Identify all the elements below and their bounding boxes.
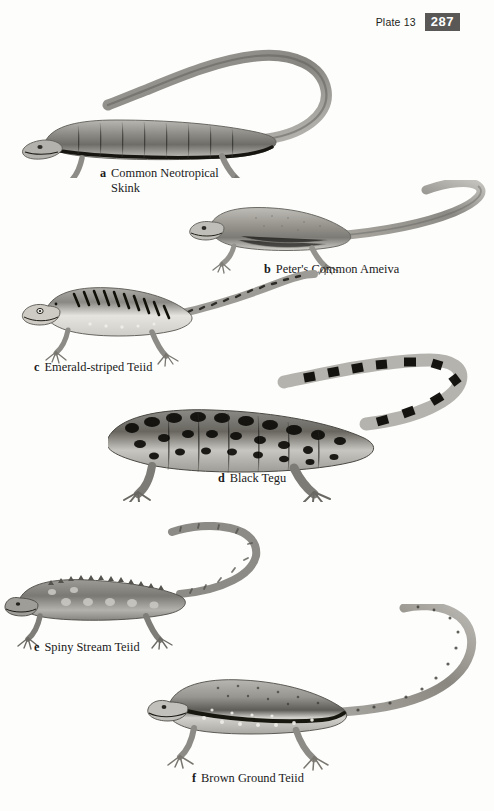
plate-label: Plate 13: [376, 16, 416, 28]
hindleg-d: [294, 468, 314, 494]
foreleg-a: [70, 158, 82, 178]
eye-a: [37, 145, 42, 149]
figure-d-black-tegu: [108, 352, 494, 502]
foreleg-e: [28, 616, 40, 639]
tail-d: [284, 360, 461, 424]
hindleg-f: [296, 730, 314, 759]
tail-c: [178, 274, 314, 314]
caption-d-tag: d: [218, 471, 225, 486]
pupil-c: [39, 310, 41, 312]
head-a: [22, 140, 62, 159]
figure-b-peters-common-ameiva: [186, 180, 494, 275]
eye-b: [202, 226, 207, 230]
caption-e-tag: e: [34, 640, 39, 655]
foreleg-c: [56, 330, 68, 353]
caption-f-line1: Brown Ground Teiid: [201, 771, 304, 785]
foreleg-d: [138, 466, 152, 494]
eye-f: [162, 705, 167, 709]
tail-f-speckles: [356, 606, 459, 712]
caption-d-line1: Black Tegu: [230, 471, 286, 485]
caption-a-line1: Common Neotropical: [111, 166, 219, 180]
caption-e: e Spiny Stream Teiid: [34, 640, 140, 655]
caption-e-line1: Spiny Stream Teiid: [44, 640, 139, 654]
foreleg-f: [180, 728, 194, 757]
plate-page: Plate 13 287: [0, 0, 494, 811]
eye-e: [16, 602, 20, 606]
head-spot-c: [55, 303, 58, 306]
figure-f-brown-ground-teiid: [146, 604, 494, 776]
page-header: Plate 13 287: [376, 13, 460, 31]
head-e: [5, 597, 38, 616]
forefoot-f: [168, 756, 193, 768]
caption-a-tag: a: [100, 166, 106, 181]
figure-a-common-neotropical-skink: [8, 28, 358, 178]
foreleg-b: [222, 246, 234, 264]
caption-f: f Brown Ground Teiid: [192, 771, 304, 786]
caption-d: d Black Tegu: [218, 471, 286, 486]
page-number-badge: 287: [425, 13, 460, 31]
hindfoot-f: [304, 757, 328, 770]
head-f: [148, 700, 188, 721]
caption-c-tag: c: [34, 360, 39, 375]
caption-f-tag: f: [192, 771, 196, 786]
hindleg-a: [222, 156, 236, 178]
